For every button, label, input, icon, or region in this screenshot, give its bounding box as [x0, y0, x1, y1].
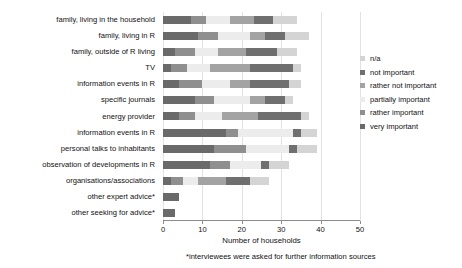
bar-row — [163, 205, 360, 221]
legend-item[interactable]: rather important — [360, 106, 460, 120]
x-tick-label: 30 — [277, 225, 285, 234]
legend-item[interactable]: very important — [360, 120, 460, 134]
bar-segment — [218, 48, 246, 56]
bar-segment — [250, 96, 266, 104]
bar-segment — [269, 161, 289, 169]
bar-segment — [163, 48, 175, 56]
plot-area — [163, 12, 360, 221]
bar-segment — [285, 32, 309, 40]
bar-rows — [163, 12, 360, 221]
legend-swatch-icon — [360, 124, 365, 129]
bar-segment — [258, 112, 301, 120]
category-label: specific journals — [101, 96, 155, 104]
bar-row — [163, 141, 360, 157]
bar-segment — [163, 129, 226, 137]
legend-label: rather not important — [370, 81, 436, 90]
legend-item[interactable]: n/a — [360, 52, 460, 66]
bar-segment — [214, 145, 246, 153]
category-label: family, living in the household — [56, 16, 155, 24]
stacked-bar[interactable] — [163, 193, 179, 201]
bar-segment — [195, 112, 223, 120]
bar-row — [163, 92, 360, 108]
x-tick-mark — [321, 221, 322, 224]
stacked-bar[interactable] — [163, 209, 175, 217]
bar-segment — [230, 80, 250, 88]
stacked-bar[interactable] — [163, 64, 301, 72]
bar-segment — [250, 80, 289, 88]
bar-segment — [210, 161, 230, 169]
bar-segment — [179, 112, 195, 120]
legend-swatch-icon — [360, 97, 365, 102]
bar-segment — [191, 16, 207, 24]
stacked-bar[interactable] — [163, 16, 297, 24]
stacked-bar[interactable] — [163, 177, 269, 185]
bar-segment — [163, 96, 195, 104]
stacked-bar[interactable] — [163, 129, 317, 137]
bar-segment — [163, 161, 210, 169]
category-label: family, outside of R living — [72, 48, 155, 56]
bar-row — [163, 108, 360, 124]
stacked-bar[interactable] — [163, 112, 309, 120]
bar-segment — [163, 177, 171, 185]
category-label: personal talks to inhabitants — [61, 145, 155, 153]
stacked-bar[interactable] — [163, 48, 297, 56]
category-axis-labels: family, living in the householdfamily, l… — [0, 12, 160, 221]
legend-swatch-icon — [360, 83, 365, 88]
bar-segment — [250, 32, 266, 40]
bar-segment — [265, 96, 285, 104]
stacked-bar[interactable] — [163, 161, 289, 169]
legend-label: not important — [370, 68, 414, 77]
bar-segment — [238, 129, 293, 137]
bar-row — [163, 28, 360, 44]
bar-row — [163, 189, 360, 205]
bar-segment — [297, 145, 317, 153]
category-label: organisations/associations — [66, 177, 155, 185]
bar-segment — [175, 48, 195, 56]
legend-item[interactable]: rather not important — [360, 79, 460, 93]
bar-row — [163, 76, 360, 92]
bar-segment — [183, 177, 199, 185]
legend-swatch-icon — [360, 70, 365, 75]
chart-footnote: *interviewees were asked for further inf… — [186, 252, 376, 261]
bar-segment — [301, 112, 309, 120]
bar-segment — [163, 80, 179, 88]
x-tick-mark — [202, 221, 203, 224]
bar-row — [163, 44, 360, 60]
bar-segment — [179, 80, 203, 88]
legend-label: rather important — [370, 108, 424, 117]
bar-row — [163, 125, 360, 141]
bar-segment — [277, 48, 297, 56]
bar-row — [163, 60, 360, 76]
bar-segment — [163, 32, 198, 40]
x-tick-mark — [360, 221, 361, 224]
x-tick-mark — [242, 221, 243, 224]
category-label: information events in R — [77, 80, 155, 88]
bar-segment — [285, 96, 293, 104]
bar-segment — [246, 145, 289, 153]
category-label: information events in R — [77, 129, 155, 137]
bar-segment — [250, 177, 270, 185]
stacked-bar[interactable] — [163, 32, 309, 40]
bar-segment — [293, 64, 301, 72]
category-label: energy provider — [102, 113, 155, 121]
stacked-bar-chart: family, living in the householdfamily, l… — [0, 0, 462, 268]
bar-segment — [195, 48, 219, 56]
x-tick-mark — [163, 221, 164, 224]
legend-label: partially important — [370, 95, 430, 104]
chart-legend: n/anot importantrather not importantpart… — [360, 52, 460, 133]
stacked-bar[interactable] — [163, 80, 301, 88]
legend-swatch-icon — [360, 56, 365, 61]
stacked-bar[interactable] — [163, 145, 317, 153]
bar-segment — [265, 32, 285, 40]
legend-item[interactable]: not important — [360, 66, 460, 80]
legend-item[interactable]: partially important — [360, 93, 460, 107]
bar-segment — [210, 64, 249, 72]
x-tick-label: 10 — [198, 225, 206, 234]
x-tick-label: 50 — [356, 225, 364, 234]
bar-segment — [222, 112, 257, 120]
bar-segment — [198, 32, 218, 40]
bar-segment — [202, 80, 230, 88]
stacked-bar[interactable] — [163, 96, 293, 104]
category-label: other expert advice* — [87, 193, 155, 201]
bar-segment — [261, 161, 269, 169]
